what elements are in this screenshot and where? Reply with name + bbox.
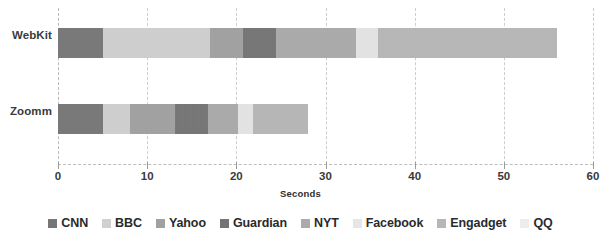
x-tick-label: 40 <box>395 170 435 182</box>
bar-segment-guardian <box>175 104 208 134</box>
stacked-bar-chart: WebKitZoomm 0102030405060 Seconds CNNBBC… <box>0 0 601 239</box>
x-tick-label: 20 <box>216 170 256 182</box>
legend-swatch-icon <box>437 219 446 228</box>
legend-swatch-icon <box>48 219 57 228</box>
legend-label: CNN <box>61 216 88 230</box>
bar-segment-nyt <box>276 28 356 58</box>
tick-mark <box>504 162 505 169</box>
legend-label: Guardian <box>233 216 287 230</box>
legend-item[interactable]: Guardian <box>220 216 287 230</box>
bar-row <box>58 28 557 58</box>
bar-segment-facebook <box>356 28 378 58</box>
x-tick-label: 30 <box>306 170 346 182</box>
tick-mark <box>593 162 594 169</box>
bar-segment-bbc <box>103 104 131 134</box>
bar-segment-facebook <box>238 104 253 134</box>
gridline <box>593 8 594 164</box>
bar-segment-yahoo <box>210 28 243 58</box>
bar-segment-yahoo <box>130 104 175 134</box>
legend-item[interactable]: Engadget <box>437 216 506 230</box>
x-tick-label: 10 <box>127 170 167 182</box>
tick-mark <box>326 162 327 169</box>
legend-label: QQ <box>533 216 552 230</box>
bar-segment-nyt <box>208 104 238 134</box>
tick-mark <box>147 162 148 169</box>
legend-item[interactable]: CNN <box>48 216 88 230</box>
bar-segment-cnn <box>58 104 103 134</box>
legend-swatch-icon <box>353 219 362 228</box>
legend-item[interactable]: Yahoo <box>156 216 206 230</box>
legend-swatch-icon <box>520 219 529 228</box>
bar-segment-bbc <box>103 28 210 58</box>
legend-label: Facebook <box>366 216 424 230</box>
bar-segment-engadget <box>253 104 307 134</box>
legend-label: Yahoo <box>169 216 206 230</box>
x-tick-label: 50 <box>484 170 524 182</box>
plot-area <box>58 8 593 164</box>
legend-label: Engadget <box>450 216 506 230</box>
legend-swatch-icon <box>156 219 165 228</box>
legend-item[interactable]: QQ <box>520 216 552 230</box>
x-tick-label: 0 <box>38 170 78 182</box>
x-axis-title: Seconds <box>0 188 601 199</box>
legend-swatch-icon <box>301 219 310 228</box>
legend-item[interactable]: Facebook <box>353 216 424 230</box>
legend-label: NYT <box>314 216 339 230</box>
legend-swatch-icon <box>220 219 229 228</box>
category-label: WebKit <box>0 29 52 41</box>
bar-segment-guardian <box>243 28 276 58</box>
legend-swatch-icon <box>102 219 111 228</box>
bar-row <box>58 104 308 134</box>
tick-mark <box>236 162 237 169</box>
legend-label: BBC <box>115 216 142 230</box>
legend-item[interactable]: BBC <box>102 216 142 230</box>
tick-mark <box>58 162 59 169</box>
bar-segment-engadget <box>378 28 557 58</box>
chart-legend: CNNBBCYahooGuardianNYTFacebookEngadgetQQ <box>0 216 601 230</box>
x-axis-line <box>58 164 593 165</box>
category-label: Zoomm <box>0 105 52 117</box>
tick-mark <box>415 162 416 169</box>
bar-segment-cnn <box>58 28 103 58</box>
legend-item[interactable]: NYT <box>301 216 339 230</box>
x-tick-label: 60 <box>573 170 601 182</box>
